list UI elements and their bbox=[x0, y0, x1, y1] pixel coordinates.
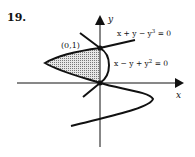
parabola-equation: x − y + y2 = 0 bbox=[114, 58, 168, 68]
x-axis-label: x bbox=[176, 90, 181, 100]
intersection-point-origin bbox=[98, 81, 103, 86]
y-axis-arrow-icon bbox=[95, 15, 105, 25]
point-label: (0,1) bbox=[61, 41, 80, 50]
diagram: y x (0,1) x + y − y3 = 0 x − y + y2 = 0 bbox=[0, 0, 195, 157]
x-axis-arrow-icon bbox=[175, 78, 184, 88]
y-axis-label: y bbox=[107, 14, 114, 24]
cubic-equation: x + y − y3 = 0 bbox=[117, 28, 171, 38]
intersection-point-0-1 bbox=[98, 46, 103, 51]
